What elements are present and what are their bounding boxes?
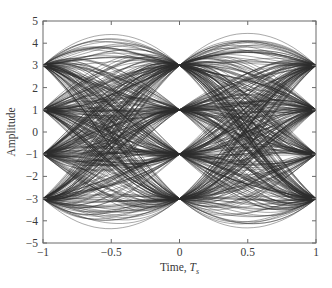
y-tick-label: −2	[26, 170, 38, 182]
y-tick-label: 5	[32, 15, 38, 27]
x-tick-label: 1	[313, 246, 319, 258]
y-tick-label: −3	[26, 193, 38, 205]
y-tick-label: −1	[26, 148, 38, 160]
eye-diagram-chart: −5−4−3−2−1012345 −1−0.500.51 Time, Ts Am…	[0, 0, 332, 288]
x-tick-label: 0	[177, 246, 183, 258]
x-axis-title: Time, Ts	[160, 261, 199, 276]
y-tick-label: 3	[32, 59, 38, 71]
x-tick-label: −0.5	[101, 246, 122, 258]
y-axis-title: Amplitude	[5, 107, 18, 156]
x-tick-label: −1	[37, 246, 49, 258]
y-tick-label: 0	[32, 126, 38, 138]
x-tick-label: 0.5	[241, 246, 256, 258]
y-tick-label: 1	[32, 104, 38, 116]
y-tick-label: 4	[32, 37, 38, 49]
plot-traces	[43, 33, 316, 228]
y-tick-label: −4	[26, 215, 38, 227]
y-tick-label: 2	[32, 82, 38, 94]
